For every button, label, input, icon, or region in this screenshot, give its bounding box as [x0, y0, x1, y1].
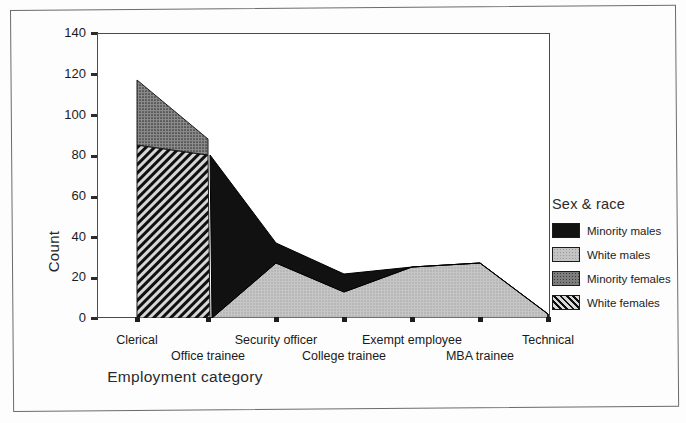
y-tick-label-100: 100 — [44, 107, 86, 122]
minority-females-swatch-icon — [552, 271, 580, 286]
x-tick-mark — [274, 317, 279, 322]
x-tick-label-office-trainee: Office trainee — [171, 349, 245, 363]
legend-label: Minority females — [587, 273, 671, 285]
legend-label: White females — [587, 297, 660, 309]
minority-males-swatch-icon — [552, 223, 580, 238]
y-tick-label-120: 120 — [44, 66, 86, 81]
stacked-area-series — [97, 33, 550, 318]
x-tick-label-college-trainee: College trainee — [302, 349, 386, 363]
x-axis-title: Employment category — [60, 368, 310, 386]
x-tick-label-security-officer: Security officer — [235, 333, 317, 347]
area-white-females — [137, 145, 210, 318]
legend-title: Sex & race — [552, 196, 684, 212]
x-tick-label-mba-trainee: MBA trainee — [446, 349, 514, 363]
y-tick-label-140: 140 — [44, 25, 86, 40]
y-tick-label-0: 0 — [44, 310, 86, 325]
white-females-swatch-icon — [552, 295, 580, 310]
x-tick-mark — [410, 317, 415, 322]
chart-figure: 140 120 100 80 60 40 20 0 — [0, 0, 686, 423]
x-tick-label-clerical: Clerical — [116, 333, 158, 347]
x-tick-mark — [546, 317, 551, 322]
legend-item-white-males[interactable]: White males — [552, 247, 684, 262]
legend-label: Minority males — [587, 225, 661, 237]
x-tick-mark — [342, 317, 347, 322]
x-tick-mark — [478, 317, 483, 322]
y-axis-title: Count — [45, 192, 62, 312]
plot-wrapper: 140 120 100 80 60 40 20 0 — [0, 0, 686, 423]
x-tick-mark — [135, 317, 140, 322]
x-tick-mark — [206, 317, 211, 322]
legend: Sex & race Minority males White males Mi… — [552, 196, 684, 319]
plot-area — [97, 33, 550, 318]
legend-item-minority-males[interactable]: Minority males — [552, 223, 684, 238]
x-tick-label-technical: Technical — [522, 333, 574, 347]
x-tick-label-exempt-employee: Exempt employee — [362, 333, 462, 347]
white-males-swatch-icon — [552, 247, 580, 262]
legend-item-minority-females[interactable]: Minority females — [552, 271, 684, 286]
legend-label: White males — [587, 249, 650, 261]
legend-item-white-females[interactable]: White females — [552, 295, 684, 310]
area-minority-females — [137, 80, 208, 155]
y-tick-label-80: 80 — [44, 147, 86, 162]
